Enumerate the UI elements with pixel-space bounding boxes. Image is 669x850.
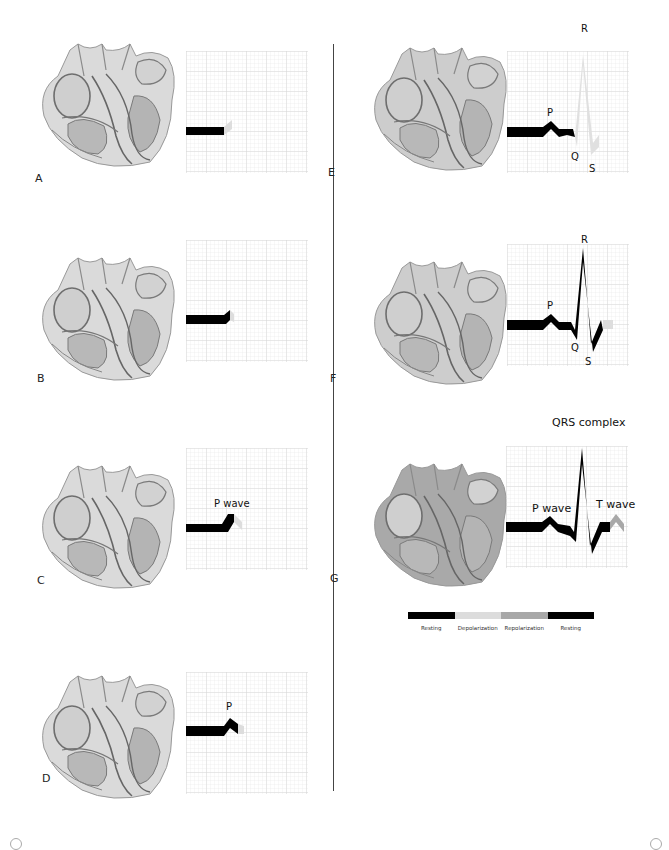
ecg-strip-f: R P Q S: [507, 244, 629, 366]
p-wave-label: P wave: [532, 502, 571, 515]
panel-letter: C: [37, 574, 45, 587]
panel-letter: F: [330, 372, 336, 385]
heart-illustration-f: [364, 258, 512, 388]
qrs-complex-label: QRS complex: [552, 416, 625, 429]
panel-letter: A: [35, 172, 43, 185]
q-label: Q: [571, 151, 579, 162]
t-wave-label: T wave: [596, 498, 635, 511]
s-label: S: [589, 163, 595, 174]
panel-letter: D: [42, 772, 50, 785]
panel-a: A: [32, 40, 342, 200]
legend-label-resting-2: Resting: [548, 625, 595, 631]
legend-swatch-resting: [408, 612, 455, 619]
panel-c: C P wave: [32, 462, 342, 622]
panel-letter: G: [330, 572, 339, 585]
corner-registration-mark: [650, 838, 662, 850]
legend-swatch-resting-2: [548, 612, 595, 619]
phase-legend: Resting Depolarization Repolarization Re…: [408, 612, 594, 631]
heart-illustration-b: [32, 254, 180, 384]
s-label: S: [585, 356, 591, 367]
ecg-strip-c: P wave: [186, 448, 308, 570]
heart-illustration-c: [32, 462, 180, 592]
panel-letter: B: [37, 372, 45, 385]
p-label: P: [547, 107, 553, 118]
p-wave-label: P wave: [214, 498, 250, 509]
r-label: R: [581, 234, 588, 245]
r-label: R: [581, 23, 588, 34]
legend-label-resting: Resting: [408, 625, 455, 631]
panel-f: F R P Q S: [364, 258, 669, 418]
ecg-strip-a: [186, 51, 308, 173]
legend-swatch-repolarization: [501, 612, 548, 619]
panel-d: D P: [32, 672, 342, 832]
panel-g: G QRS complex P wave T wave: [364, 460, 669, 620]
legend-label-depolarization: Depolarization: [455, 625, 502, 631]
heart-illustration-g: [364, 460, 512, 590]
p-label: P: [547, 300, 553, 311]
ecg-strip-g: QRS complex P wave T wave: [506, 446, 628, 568]
legend-color-bar: [408, 612, 594, 619]
legend-swatch-depolarization: [455, 612, 502, 619]
ecg-strip-b: [186, 240, 308, 362]
ecg-strip-e: R P Q S: [507, 51, 629, 173]
panel-e: E R P Q S: [364, 44, 669, 204]
panel-letter: E: [328, 166, 335, 179]
heart-illustration-a: [32, 40, 180, 170]
p-label: P: [226, 701, 232, 712]
ecg-strip-d: P: [186, 672, 308, 794]
panel-b: B: [32, 254, 342, 414]
heart-illustration-e: [364, 44, 512, 174]
heart-illustration-d: [32, 672, 180, 802]
legend-label-repolarization: Repolarization: [501, 625, 548, 631]
corner-registration-mark: [10, 838, 22, 850]
q-label: Q: [571, 342, 579, 353]
